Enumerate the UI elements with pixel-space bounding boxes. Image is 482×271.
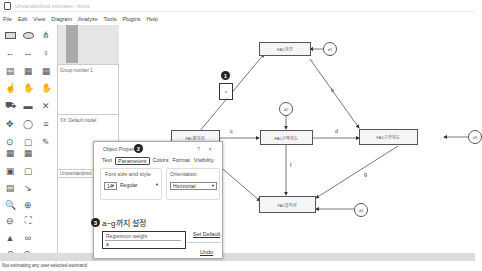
select-data-icon[interactable]: ▦	[3, 147, 17, 158]
chevron-down-icon: ▼	[211, 183, 215, 189]
node-fac-purchase[interactable]: FAC구매의도	[260, 130, 313, 145]
window-title: Unstandardized estimates - Amos	[15, 3, 90, 9]
clipboard-icon[interactable]: ▢	[21, 165, 35, 176]
toolbox: ⋔ ← ↔ ♀ ▤ ▦ ▦ ☝ ✋ ✋ ⛟ ▬ ✕ ✥ ◯ ≡ ⊙ ▢ ✎ ▦ …	[0, 25, 57, 260]
menu-plugins[interactable]: Plugins	[122, 16, 140, 22]
regression-weight-box: Regression weight a	[102, 231, 186, 249]
ellipse-tool-icon[interactable]	[21, 30, 35, 41]
analysis-properties-icon[interactable]: ▦	[21, 147, 35, 158]
title-bar: Unstandardized estimates - Amos	[0, 0, 475, 12]
list-data-icon[interactable]: ▦	[39, 65, 53, 76]
title-tool-icon[interactable]: ▤	[3, 65, 17, 76]
rectangle-tool-icon[interactable]	[3, 30, 17, 41]
divider	[187, 242, 221, 243]
status-bar: Not estimating any user-selected estiman…	[0, 261, 475, 271]
menu-help[interactable]: Help	[146, 16, 157, 22]
menu-edit[interactable]: Edit	[18, 16, 27, 22]
status-text: Not estimating any user-selected estiman…	[2, 263, 87, 268]
zoom-in-area-icon[interactable]: 🔍	[3, 199, 17, 210]
move-icon[interactable]: ▬	[21, 100, 35, 111]
orientation-label: Orientation	[170, 171, 197, 177]
list-variables-icon[interactable]: ▦	[21, 65, 35, 76]
selected-path-label-a[interactable]: a	[219, 83, 233, 100]
annotation-3: 3	[91, 218, 100, 227]
error-d1[interactable]: d1	[323, 42, 337, 56]
select-one-icon[interactable]: ☝	[3, 82, 17, 93]
path-label-b: b	[331, 87, 334, 93]
double-arrow-icon[interactable]: ↔	[21, 47, 35, 58]
menu-tools[interactable]: Tools	[104, 16, 117, 22]
calculate-estimates-icon[interactable]: ▣	[3, 165, 17, 176]
deselect-icon[interactable]: ✋	[39, 82, 53, 93]
degrees-freedom-icon[interactable]: ▲	[3, 232, 17, 243]
error-d3[interactable]: d3	[468, 130, 482, 144]
copy-icon[interactable]: ⛟	[3, 100, 17, 111]
menu-view[interactable]: View	[33, 16, 45, 22]
tab-parameters[interactable]: Parameters	[115, 157, 149, 165]
select-all-icon[interactable]: ✋	[21, 82, 35, 93]
error-d4[interactable]: d4	[354, 203, 368, 217]
menu-file[interactable]: File	[3, 16, 12, 22]
horizontal-scrollbar[interactable]	[0, 253, 475, 261]
path-label-f: f	[290, 162, 292, 168]
group-list[interactable]: Group number 1	[58, 65, 120, 115]
erase-icon[interactable]: ✕	[39, 100, 53, 111]
regression-weight-label: Regression weight	[106, 233, 147, 239]
shape-change-icon[interactable]: ✥	[3, 118, 17, 129]
tab-text[interactable]: Text	[101, 157, 113, 165]
close-button[interactable]: ✕	[208, 146, 212, 152]
node-fac-word-of-mouth[interactable]: FAC구전의도	[359, 129, 418, 145]
font-size-select[interactable]: 14▼	[104, 182, 117, 190]
error-d2[interactable]: d2	[279, 102, 293, 116]
latent-indicator-icon[interactable]: ⋔	[39, 29, 53, 40]
node-fac-opinion[interactable]: FAC의견	[259, 42, 311, 56]
node-fac-interest[interactable]: FAC흥미성	[259, 196, 316, 213]
path-diagram-thumbnail[interactable]	[58, 25, 120, 65]
zoom-in-icon[interactable]: ⊕	[21, 199, 35, 210]
menu-bar: File Edit View Diagram Analyze Tools Plu…	[0, 13, 475, 24]
save-icon[interactable]: ↘	[21, 182, 35, 193]
orientation-select[interactable]: Horizontal▼	[170, 182, 217, 190]
group-label[interactable]: Group number 1	[60, 68, 93, 73]
annotation-1: 1	[221, 71, 230, 80]
touch-up-icon[interactable]: ✎	[39, 136, 53, 147]
rotate-icon[interactable]: ◯	[21, 118, 35, 129]
object-properties-dialog: Object Properties 2 ? ✕ Text Parameters …	[93, 141, 223, 259]
move-parameter-icon[interactable]: ⊙	[3, 136, 17, 147]
annotation-3-text: a~g까지 설정	[102, 217, 146, 228]
annotation-2: 2	[134, 144, 143, 153]
menu-analyze[interactable]: Analyze	[78, 16, 98, 22]
chevron-down-icon: ▼	[155, 182, 159, 188]
font-label: Font size and style	[105, 171, 151, 177]
path-label-d: d	[335, 128, 338, 134]
path-label-g: g	[364, 171, 367, 177]
dialog-tabs: Text Parameters Colors Format Visibility	[101, 157, 215, 165]
zoom-out-icon[interactable]: ⊖	[3, 215, 17, 226]
font-style-select[interactable]: Regular▼	[118, 182, 160, 190]
scroll-icon[interactable]: ▢	[21, 136, 35, 147]
help-button[interactable]: ?	[197, 146, 200, 152]
set-default-button[interactable]: Set Default	[193, 231, 220, 237]
reflect-icon[interactable]: ≡	[39, 118, 53, 129]
menu-diagram[interactable]: Diagram	[51, 16, 72, 22]
binoculars-icon[interactable]: ∞	[21, 232, 35, 243]
tab-colors[interactable]: Colors	[152, 157, 170, 165]
tab-format[interactable]: Format	[171, 157, 190, 165]
model-label[interactable]: XX: Default model	[60, 118, 96, 123]
unique-variable-icon[interactable]: ♀	[39, 47, 53, 58]
path-label-c: c	[230, 128, 233, 134]
view-text-icon[interactable]: ▤	[3, 182, 17, 193]
chevron-down-icon: ▼	[111, 183, 115, 189]
tab-visibility[interactable]: Visibility	[193, 157, 215, 165]
regression-weight-input[interactable]: a	[105, 240, 181, 247]
undo-button[interactable]: Undo	[200, 249, 213, 255]
fit-page-icon[interactable]: ⛶	[21, 215, 35, 226]
single-arrow-icon[interactable]: ←	[3, 47, 17, 58]
app-icon	[4, 2, 11, 10]
